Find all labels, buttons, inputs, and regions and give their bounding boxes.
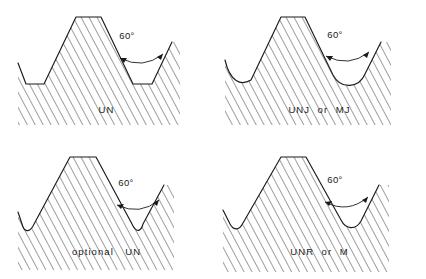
panel-un: 60° xyxy=(0,0,213,139)
caption-unr-m: UNR or M xyxy=(213,246,426,257)
angle-label-unr: 60° xyxy=(327,174,343,185)
angle-callout-un: 60° xyxy=(119,30,163,63)
caption-optional-un: optional UN xyxy=(0,246,213,257)
angle-label-un: 60° xyxy=(119,30,135,41)
caption-unj-mj: UNJ or MJ xyxy=(213,104,426,115)
panel-optional-un: 60° xyxy=(0,140,213,279)
panel-unj-mj: 60° xyxy=(213,0,426,139)
panel-unr-m: 60° xyxy=(213,140,426,279)
angle-callout-unj: 60° xyxy=(326,29,369,61)
angle-label-unj: 60° xyxy=(327,29,343,40)
caption-un: UN xyxy=(0,104,213,115)
angle-label-optional-un: 60° xyxy=(118,177,134,188)
angle-callout-optional-un: 60° xyxy=(117,177,159,209)
thread-profile-figure: 60° UN 60° xyxy=(0,0,426,279)
